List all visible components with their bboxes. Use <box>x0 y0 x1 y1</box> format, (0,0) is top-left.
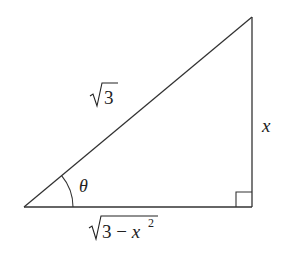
angle-arc <box>62 176 73 207</box>
hypotenuse-line <box>24 17 252 207</box>
hypotenuse-label: 3 <box>90 83 118 108</box>
base-variable-x: x <box>131 221 141 242</box>
hypotenuse-radicand: 3 <box>104 87 114 108</box>
triangle-diagram: 3 x θ 3 − x 2 <box>0 0 293 255</box>
angle-label: θ <box>79 176 88 196</box>
opposite-label: x <box>261 115 271 136</box>
base-label: 3 − x 2 <box>89 216 158 242</box>
right-angle-marker <box>236 192 252 207</box>
base-exponent: 2 <box>148 216 154 230</box>
base-radicand-text: 3 − <box>102 221 132 242</box>
base-radicand: 3 − x <box>102 221 141 242</box>
